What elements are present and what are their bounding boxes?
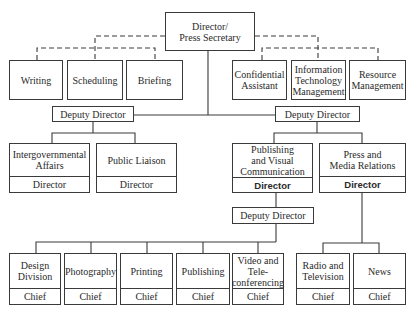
box-role: Chief	[65, 288, 116, 304]
box-label: Publishing and Visual Communication	[233, 144, 312, 177]
box-role: Chief	[10, 288, 60, 304]
box-role: Chief	[177, 288, 229, 304]
box-label: Radio and Television	[297, 254, 349, 288]
box-label: Information Technology Management	[292, 61, 345, 99]
box-label: Printing	[121, 254, 172, 288]
box-label: Resource Management	[350, 61, 405, 99]
box-label: Design Division	[10, 254, 60, 288]
confidential-assistant-box: Confidential Assistant	[232, 60, 287, 100]
radio-television-box: Radio and Television Chief	[296, 253, 350, 305]
box-label: Scheduling	[68, 61, 122, 99]
box-label: Deputy Director	[53, 107, 133, 121]
box-role: Director	[97, 176, 176, 192]
publishing-visual-communication-box: Publishing and Visual Communication Dire…	[232, 143, 313, 193]
press-media-relations-box: Press and Media Relations Director	[319, 143, 406, 193]
video-teleconferencing-box: Video and Tele- conferencing Chief	[232, 253, 284, 305]
box-label: Video and Tele- conferencing	[233, 254, 283, 288]
box-role: Director	[10, 176, 89, 192]
public-liaison-box: Public Liaison Director	[96, 143, 177, 193]
director-press-secretary-box: Director/ Press Secretary	[165, 12, 255, 51]
box-label: Writing	[10, 61, 62, 99]
box-label: Photography	[65, 254, 116, 288]
box-label: Deputy Director	[233, 208, 313, 223]
design-division-box: Design Division Chief	[9, 253, 61, 305]
box-label: News	[354, 254, 405, 288]
deputy-director-left-box: Deputy Director	[52, 106, 134, 122]
box-role: Chief	[233, 288, 283, 304]
intergovernmental-affairs-box: Intergovernmental Affairs Director	[9, 143, 90, 193]
deputy-director-right-box: Deputy Director	[275, 106, 360, 122]
deputy-director-publishing-box: Deputy Director	[232, 207, 314, 224]
printing-box: Printing Chief	[120, 253, 173, 305]
box-label: Confidential Assistant	[233, 61, 286, 99]
photography-box: Photography Chief	[64, 253, 117, 305]
news-box: News Chief	[353, 253, 406, 305]
briefing-box: Briefing	[126, 60, 183, 100]
box-label: Publishing	[177, 254, 229, 288]
box-role: Director	[320, 176, 405, 192]
publishing-box: Publishing Chief	[176, 253, 230, 305]
box-label: Director/ Press Secretary	[166, 13, 254, 50]
box-label: Public Liaison	[97, 144, 176, 176]
box-label: Briefing	[127, 61, 182, 99]
writing-box: Writing	[9, 60, 63, 100]
scheduling-box: Scheduling	[67, 60, 123, 100]
box-label: Intergovernmental Affairs	[10, 144, 89, 176]
box-role: Director	[233, 177, 312, 192]
box-label: Press and Media Relations	[320, 144, 405, 176]
box-role: Chief	[121, 288, 172, 304]
box-label: Deputy Director	[276, 107, 359, 121]
it-management-box: Information Technology Management	[291, 60, 346, 100]
box-role: Chief	[297, 288, 349, 304]
resource-management-box: Resource Management	[349, 60, 406, 100]
box-role: Chief	[354, 288, 405, 304]
